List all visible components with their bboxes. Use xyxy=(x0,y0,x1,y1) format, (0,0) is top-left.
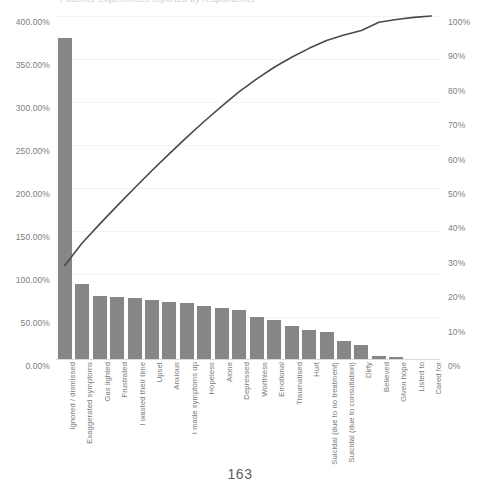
cumulative-line-series xyxy=(56,16,440,360)
left-axis-tick: 150.00% xyxy=(16,232,50,242)
category-label: Upset xyxy=(155,362,164,382)
category-label: Given hope xyxy=(399,362,408,402)
left-axis-tick: 400.00% xyxy=(16,17,50,27)
right-axis-tick: 50% xyxy=(448,189,465,199)
category-label: Anxious xyxy=(172,362,181,390)
category-label: I wasted their time xyxy=(138,362,147,426)
category-label: Alone xyxy=(225,362,234,382)
category-label: Depressed xyxy=(242,362,251,400)
category-label: Ignored / dismissed xyxy=(68,362,77,430)
left-axis-tick: 50.00% xyxy=(21,318,50,328)
left-axis-tick: 100.00% xyxy=(16,275,50,285)
category-label: Cared for xyxy=(434,362,443,395)
left-axis-tick: 350.00% xyxy=(16,60,50,70)
category-label: Traumatised xyxy=(295,362,304,405)
category-label: Dirty xyxy=(364,362,373,378)
right-axis-tick: 90% xyxy=(448,51,465,61)
cropped-title-strip: Patients' experiences reported by respon… xyxy=(60,0,390,8)
category-label: Believed xyxy=(382,362,391,392)
category-label: Worthless xyxy=(260,362,269,397)
category-label: Hopeless xyxy=(207,362,216,394)
right-axis-tick: 10% xyxy=(448,327,465,337)
page-canvas: Patients' experiences reported by respon… xyxy=(0,0,480,494)
plot-area xyxy=(56,16,440,360)
right-percent-axis: 0%10%20%30%40%50%60%70%80%90%100% xyxy=(444,16,480,360)
right-axis-tick: 20% xyxy=(448,292,465,302)
left-axis-tick: 0.00% xyxy=(25,361,50,371)
right-axis-tick: 100% xyxy=(448,17,470,27)
category-axis-labels: Ignored / dismissedExaggerated symptomsG… xyxy=(56,362,440,472)
right-axis-tick: 60% xyxy=(448,155,465,165)
category-label: Suicidal (due to consultation) xyxy=(347,362,356,463)
category-label: Frustrated xyxy=(120,362,129,398)
category-label: Emotional xyxy=(277,362,286,397)
right-axis-tick: 30% xyxy=(448,258,465,268)
category-label: Suicidal (due to no treatment) xyxy=(330,362,339,465)
page-number: 163 xyxy=(0,466,480,482)
left-value-axis: 0.00%50.00%100.00%150.00%200.00%250.00%3… xyxy=(0,16,54,360)
category-label: I made symptoms up xyxy=(190,362,199,434)
category-label: Hurt xyxy=(312,362,321,377)
left-axis-tick: 250.00% xyxy=(16,146,50,156)
category-axis-line xyxy=(56,359,440,360)
left-axis-tick: 300.00% xyxy=(16,103,50,113)
category-label: Exaggerated symptoms xyxy=(85,362,94,444)
category-label: Listed to xyxy=(417,362,426,392)
right-axis-tick: 80% xyxy=(448,86,465,96)
left-axis-tick: 200.00% xyxy=(16,189,50,199)
right-axis-tick: 0% xyxy=(448,361,461,371)
pareto-chart: 0.00%50.00%100.00%150.00%200.00%250.00%3… xyxy=(0,10,480,360)
cumulative-line-path xyxy=(65,16,432,265)
category-label: Gas lighted xyxy=(103,362,112,402)
right-axis-tick: 40% xyxy=(448,223,465,233)
cropped-title-text: Patients' experiences reported by respon… xyxy=(60,0,390,4)
right-axis-tick: 70% xyxy=(448,120,465,130)
